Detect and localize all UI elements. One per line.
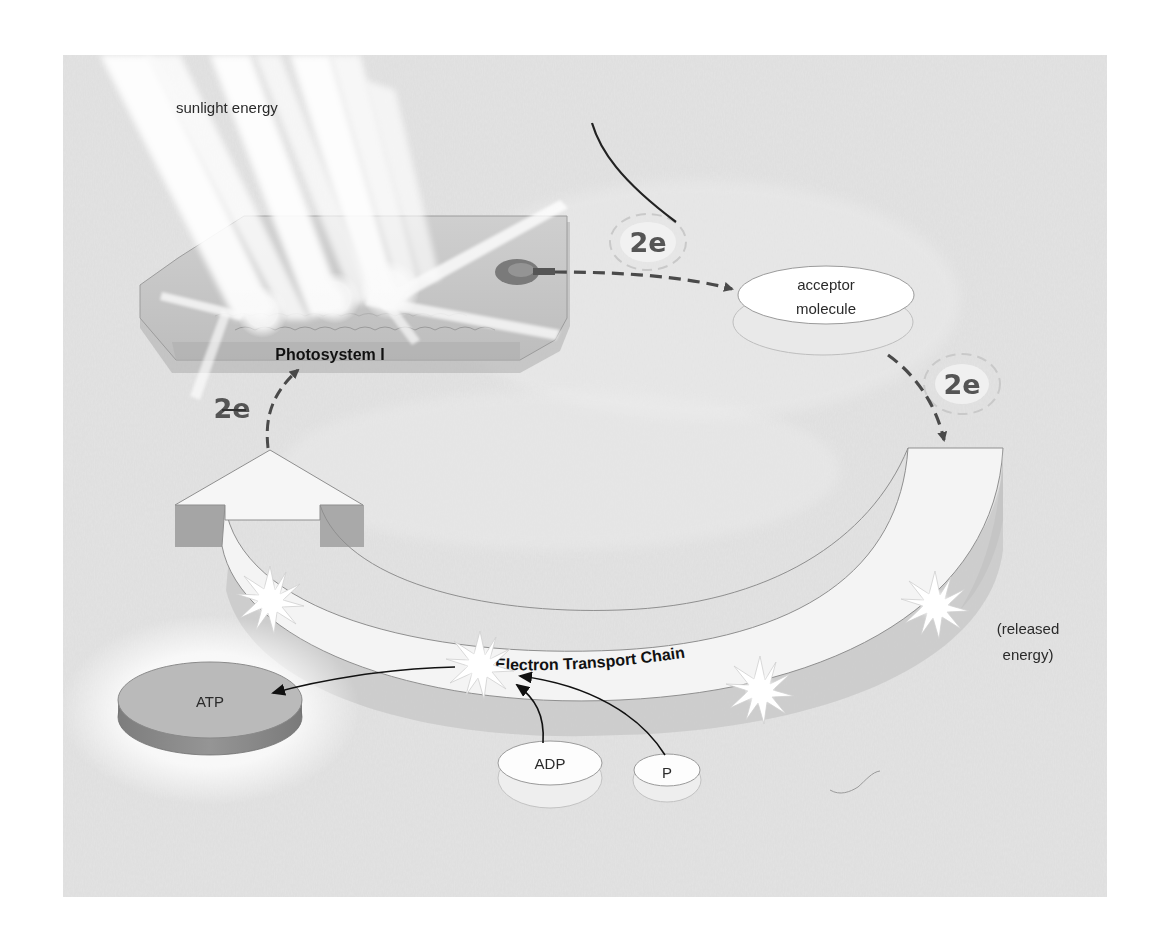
svg-text:2e: 2e bbox=[629, 227, 666, 258]
sunlight-energy-label: sunlight energy bbox=[176, 99, 278, 116]
svg-text:P: P bbox=[662, 764, 672, 781]
photosystem-label: Photosystem I bbox=[275, 346, 384, 363]
acceptor-molecule: acceptor molecule bbox=[733, 266, 914, 355]
diagram-canvas: Electron Transport Chain 2e acceptor mol… bbox=[0, 0, 1167, 939]
svg-text:acceptor: acceptor bbox=[797, 276, 855, 293]
svg-text:ATP: ATP bbox=[196, 693, 224, 710]
phosphate-disk: P bbox=[633, 754, 701, 802]
released-energy-label-2: energy) bbox=[1003, 646, 1054, 663]
atp-disk: ATP bbox=[60, 615, 360, 805]
svg-text:ADP: ADP bbox=[535, 755, 566, 772]
electron-pair-left: 2e bbox=[213, 393, 250, 424]
svg-text:2e: 2e bbox=[213, 393, 250, 424]
svg-text:2e: 2e bbox=[943, 369, 980, 400]
adp-disk: ADP bbox=[498, 741, 602, 808]
svg-text:molecule: molecule bbox=[796, 300, 856, 317]
released-energy-label: (released bbox=[997, 620, 1060, 637]
